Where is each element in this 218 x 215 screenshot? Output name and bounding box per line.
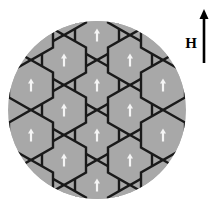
domain-cell bbox=[141, 10, 185, 60]
field-arrow-head bbox=[200, 9, 209, 19]
magnetization-arrow-head bbox=[160, 179, 166, 184]
magnetization-arrow bbox=[160, 29, 166, 42]
magnetization-arrow-head bbox=[28, 179, 34, 184]
magnetization-arrow-head bbox=[61, 4, 67, 9]
domain-cell bbox=[75, 210, 119, 214]
domain-diagram-svg: H bbox=[0, 0, 218, 214]
magnetization-arrow-head bbox=[160, 29, 166, 34]
field-label-H: H bbox=[185, 35, 197, 51]
domain-cell bbox=[9, 160, 53, 210]
magnetization-arrow bbox=[61, 4, 67, 17]
figure-root: H bbox=[0, 0, 218, 214]
magnetization-arrow-head bbox=[127, 204, 133, 209]
magnetization-arrow bbox=[160, 179, 166, 192]
magnetization-arrow bbox=[61, 204, 67, 215]
magnetization-arrow bbox=[28, 29, 34, 42]
domain-cell bbox=[9, 10, 53, 60]
magnetization-arrow bbox=[28, 179, 34, 192]
magnetization-arrow-head bbox=[28, 29, 34, 34]
magnetization-arrow bbox=[127, 204, 133, 215]
field-indicator: H bbox=[185, 9, 208, 63]
magnetization-arrow-head bbox=[61, 204, 67, 209]
magnetization-arrow-head bbox=[127, 4, 133, 9]
domain-cell bbox=[141, 160, 185, 210]
magnetization-arrow bbox=[127, 4, 133, 17]
field-arrow-icon bbox=[200, 9, 209, 63]
